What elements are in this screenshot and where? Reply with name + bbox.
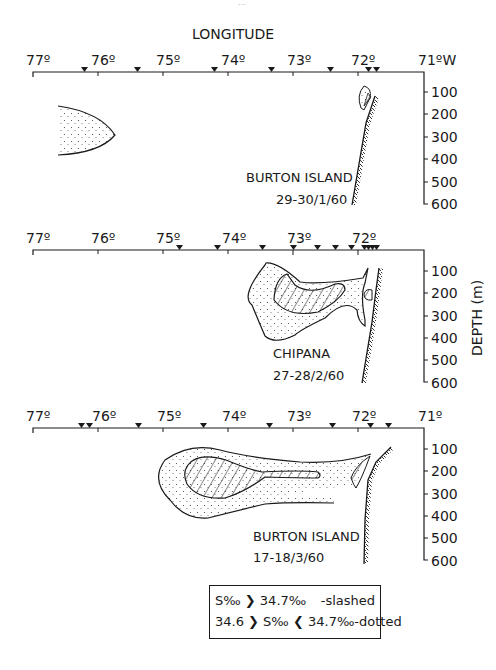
station-marker-icon: [373, 67, 380, 72]
svg-text:100: 100: [431, 441, 458, 457]
svg-text:400: 400: [431, 151, 458, 167]
tick-label-71w: 71ºW: [418, 52, 456, 68]
ship-name: BURTON ISLAND: [253, 529, 360, 544]
legend-label: -slashed: [321, 590, 375, 611]
station-marker-icon: [268, 67, 275, 72]
svg-text:76º: 76º: [91, 230, 115, 246]
svg-text:100: 100: [431, 263, 458, 279]
panel-3: 77º 76º 75º 74º 73º 72º 71º 100 200 300 …: [26, 408, 458, 569]
slope-hatching: [352, 96, 379, 205]
slope-hatching: [364, 447, 393, 564]
depth-ticks: 100 200 300 400 500 600: [424, 441, 458, 569]
tick-label-77: 77º: [26, 52, 50, 68]
svg-text:76º: 76º: [92, 408, 116, 424]
depth-ticks: 100 200 300 400 500 600: [424, 84, 458, 212]
ship-name: BURTON ISLAND: [246, 170, 353, 185]
salinity-section-diagram: LONGITUDE 77º 76º 75º 74º 73º 72º 71ºW 1…: [0, 0, 496, 670]
panel-2: 77º 76º 75º 74º 73º 72º 100 200 300: [26, 230, 485, 391]
svg-text:600: 600: [431, 196, 458, 212]
longitude-ticks: [98, 250, 358, 255]
dotted-water-mass: [58, 106, 115, 155]
longitude-tick-labels: 77º 76º 75º 74º 73º 72º 71º: [26, 408, 442, 424]
longitude-axis-title: LONGITUDE: [192, 26, 274, 42]
survey-date: 17-18/3/60: [253, 550, 324, 565]
svg-text:100: 100: [431, 84, 458, 100]
svg-text:74º: 74º: [222, 230, 246, 246]
longitude-tick-labels: 77º 76º 75º 74º 73º 72º 71ºW: [26, 52, 456, 68]
svg-text:200: 200: [431, 106, 458, 122]
legend-label: -dotted: [354, 611, 401, 632]
svg-text:200: 200: [431, 463, 458, 479]
tick-label-74: 74º: [221, 52, 245, 68]
legend-box: S‰ ❯ 34.7‰ -slashed 34.6 ❯ S‰ ❮ 34.7‰ -d…: [209, 585, 381, 639]
slashed-water-mass: [364, 290, 372, 301]
svg-text:400: 400: [431, 330, 458, 346]
svg-text:600: 600: [431, 375, 458, 391]
tick-label-76: 76º: [91, 52, 115, 68]
svg-text:600: 600: [431, 553, 458, 569]
svg-text:75º: 75º: [156, 230, 180, 246]
ship-name: CHIPANA: [273, 346, 330, 361]
longitude-tick-labels: 77º 76º 75º 74º 73º 72º: [26, 230, 376, 246]
depth-axis-title: DEPTH (m): [469, 280, 485, 356]
survey-date: 27-28/2/60: [273, 368, 344, 383]
depth-ticks: 100 200 300 400 500 600: [424, 263, 458, 391]
tick-label-73: 73º: [287, 52, 311, 68]
svg-text:74º: 74º: [222, 408, 246, 424]
svg-text:300: 300: [431, 486, 458, 502]
legend-expression: 34.6 ❯ S‰ ❮ 34.7‰: [215, 611, 354, 632]
svg-text:400: 400: [431, 508, 458, 524]
station-marker-icon: [327, 67, 334, 72]
svg-text:500: 500: [431, 174, 458, 190]
survey-date: 29-30/1/60: [276, 192, 347, 207]
svg-text:73º: 73º: [287, 408, 311, 424]
tick-label-72: 72º: [351, 52, 375, 68]
svg-text:300: 300: [431, 308, 458, 324]
tick-label-75: 75º: [156, 52, 180, 68]
svg-text:77º: 77º: [26, 408, 50, 424]
station-marker-icon: [81, 67, 88, 72]
svg-text:77º: 77º: [26, 230, 50, 246]
svg-text:73º: 73º: [287, 230, 311, 246]
svg-text:300: 300: [431, 129, 458, 145]
legend-expression: S‰ ❯ 34.7‰: [215, 590, 306, 611]
legend-row-slashed: S‰ ❯ 34.7‰ -slashed: [215, 590, 375, 611]
svg-text:200: 200: [431, 285, 458, 301]
legend-row-dotted: 34.6 ❯ S‰ ❮ 34.7‰ -dotted: [215, 611, 375, 632]
svg-text:500: 500: [431, 530, 458, 546]
station-marker-icon: [211, 67, 218, 72]
svg-text:71º: 71º: [418, 408, 442, 424]
station-markers: [176, 245, 380, 250]
station-marker-icon: [365, 67, 372, 72]
panel-1: 77º 76º 75º 74º 73º 72º 71ºW 100 200 300…: [26, 52, 458, 212]
station-marker-icon: [134, 67, 141, 72]
svg-text:500: 500: [431, 352, 458, 368]
svg-text:72º: 72º: [352, 230, 376, 246]
svg-text:75º: 75º: [157, 408, 181, 424]
svg-text:72º: 72º: [352, 408, 376, 424]
